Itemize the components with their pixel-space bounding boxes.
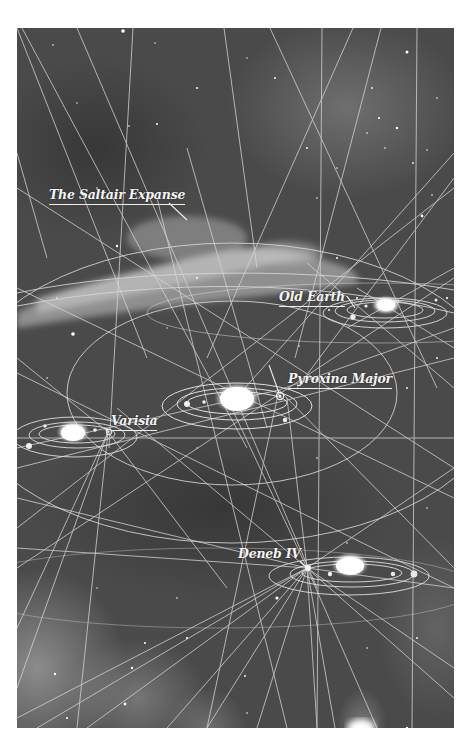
- label-underline: [279, 306, 345, 307]
- label-deneb-iv-text: Deneb IV: [238, 546, 301, 561]
- label-deneb-iv: Deneb IV: [238, 547, 301, 561]
- label-varisia-text: Varisia: [111, 413, 157, 428]
- label-old-earth-text: Old Earth: [279, 289, 345, 304]
- star-map: The Saltair Expanse Old Earth Pyroxina M…: [17, 28, 454, 728]
- label-varisia: Varisia: [111, 414, 157, 428]
- label-pyroxina-major-text: Pyroxina Major: [288, 371, 392, 386]
- label-underline: [111, 430, 157, 431]
- label-pyroxina-major: Pyroxina Major: [288, 372, 392, 386]
- label-saltair-expanse: The Saltair Expanse: [49, 188, 185, 202]
- label-old-earth: Old Earth: [279, 290, 345, 304]
- label-underline: [288, 388, 392, 389]
- label-saltair-expanse-text: The Saltair Expanse: [49, 187, 185, 202]
- label-underline: [49, 204, 185, 205]
